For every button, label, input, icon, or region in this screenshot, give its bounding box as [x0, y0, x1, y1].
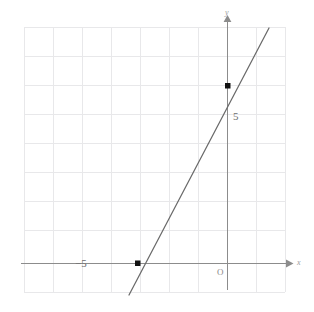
x-axis-label: x	[297, 259, 301, 267]
graph-figure: −5 5 O x y	[0, 0, 314, 312]
y-axis-label: y	[225, 9, 229, 17]
y-tick-label-5: 5	[233, 111, 239, 122]
coordinate-plane-svg	[0, 0, 314, 312]
point-marker-y-intercept	[225, 83, 231, 89]
x-tick-label-minus-5: −5	[75, 258, 87, 269]
point-marker-x-intercept	[135, 261, 141, 267]
marked-points	[135, 83, 231, 266]
grid-lines	[24, 27, 286, 293]
x-axis	[21, 260, 294, 268]
x-axis-arrowhead	[286, 260, 294, 268]
origin-label: O	[217, 268, 224, 277]
